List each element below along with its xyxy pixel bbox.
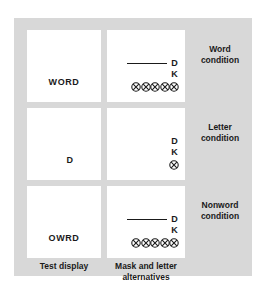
circled-x-icon [169, 238, 179, 248]
condition-label-line2: condition [190, 211, 250, 222]
alternative-row-1: D [113, 58, 179, 69]
alternative-row-2: K [113, 147, 179, 158]
mask-glyph-row [113, 81, 179, 93]
letter-alternative-1: D [170, 136, 179, 147]
caption-mask-line1: Mask and letter [102, 261, 190, 272]
figure-panel: WORD D K [14, 18, 252, 276]
caption-test-display-text: Test display [21, 261, 107, 272]
circled-x-icon [150, 238, 160, 248]
circled-x-icon [141, 238, 151, 248]
test-display-card: OWRD [27, 186, 101, 258]
mask-glyph-row [113, 159, 179, 171]
letter-alternative-2: K [170, 147, 179, 158]
circled-x-icon [169, 82, 179, 92]
circled-x-icon [141, 82, 151, 92]
letter-alternative-1: D [170, 58, 179, 69]
test-display-card: D [27, 108, 101, 180]
horizontal-rule-icon [127, 63, 167, 64]
test-display-text: WORD [27, 77, 101, 87]
horizontal-rule-icon [127, 219, 167, 220]
test-display-card: WORD [27, 30, 101, 102]
mask-glyph-row [113, 237, 179, 249]
column-captions: Test display Mask and letter alternative… [14, 261, 252, 291]
condition-row: OWRD D K [14, 186, 252, 258]
condition-label-line2: condition [190, 133, 250, 144]
condition-label: Letter condition [190, 122, 250, 144]
test-display-text: D [27, 155, 101, 165]
condition-row: WORD D K [14, 30, 252, 102]
condition-label: Word condition [190, 44, 250, 66]
letter-alternative-1: D [170, 214, 179, 225]
circled-x-icon [150, 82, 160, 92]
mask-contents: D K [113, 58, 179, 93]
caption-mask-line2: alternatives [102, 272, 190, 283]
letter-alternative-2: K [170, 69, 179, 80]
letter-alternative-2: K [170, 225, 179, 236]
alternative-row-2: K [113, 69, 179, 80]
condition-label-line2: condition [190, 55, 250, 66]
alternative-row-2: K [113, 225, 179, 236]
condition-row: D D K [14, 108, 252, 180]
alternative-row-1: D [113, 136, 179, 147]
mask-card: D K [107, 30, 185, 102]
mask-card: D K [107, 108, 185, 180]
condition-label-line1: Letter [190, 122, 250, 133]
horizontal-rule-icon [127, 141, 167, 142]
alternative-row-1: D [113, 214, 179, 225]
condition-label-line1: Nonword [190, 200, 250, 211]
circled-x-icon [160, 82, 170, 92]
caption-test-display: Test display [21, 261, 107, 272]
circled-x-icon [169, 160, 179, 170]
test-display-text: OWRD [27, 233, 101, 243]
caption-mask-alternatives: Mask and letter alternatives [102, 261, 190, 283]
circled-x-icon [131, 238, 141, 248]
condition-label: Nonword condition [190, 200, 250, 222]
circled-x-icon [131, 82, 141, 92]
circled-x-icon [160, 238, 170, 248]
mask-contents: D K [113, 136, 179, 171]
mask-card: D K [107, 186, 185, 258]
mask-contents: D K [113, 214, 179, 249]
condition-label-line1: Word [190, 44, 250, 55]
